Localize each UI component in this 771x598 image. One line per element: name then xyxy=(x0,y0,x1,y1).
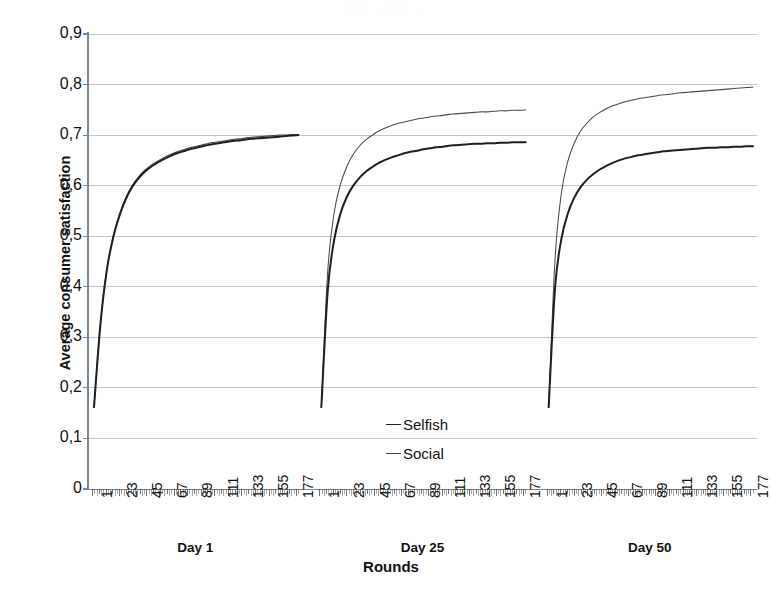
y-axis-tick-label: 0,5 xyxy=(36,227,82,243)
series-line-selfish xyxy=(321,142,525,407)
y-axis-tick-label: 0,3 xyxy=(36,328,82,344)
panel-caption-day-25: Day 25 xyxy=(315,540,529,555)
chart-legend: SelfishSocial xyxy=(386,410,516,468)
legend-line-swatch xyxy=(386,453,401,454)
y-axis-tick-label: 0 xyxy=(36,480,82,496)
x-axis-title: Rounds xyxy=(0,558,764,575)
y-axis-tick-label: 0,9 xyxy=(36,25,82,41)
legend-item-social[interactable]: Social xyxy=(386,439,516,468)
x-axis-tick-mark-strip xyxy=(92,489,300,496)
series-line-selfish xyxy=(94,135,298,407)
panel-caption-day-1: Day 1 xyxy=(88,540,302,555)
panel-caption-day-50: Day 50 xyxy=(543,540,757,555)
x-axis-tick-mark-strip xyxy=(319,489,527,496)
legend-line-swatch xyxy=(386,424,401,425)
series-line-social xyxy=(94,135,298,408)
legend-item-label: Selfish xyxy=(403,416,448,433)
y-axis-tick-labels: 00,10,20,30,40,50,60,70,80,9 xyxy=(30,0,82,598)
legend-item-label: Social xyxy=(403,445,444,462)
y-axis-tick-label: 0,6 xyxy=(36,177,82,193)
x-axis-tick-label: 177 xyxy=(528,475,542,498)
y-axis-tick-label: 0,8 xyxy=(36,76,82,92)
series-line-social xyxy=(321,110,525,407)
y-axis-tick-label: 0,2 xyxy=(36,379,82,395)
y-axis-tick-label: 0,4 xyxy=(36,278,82,294)
x-axis-tick-label: 177 xyxy=(301,475,315,498)
x-axis-title-text: Rounds xyxy=(363,558,419,575)
y-axis-tick-label: 0,7 xyxy=(36,126,82,142)
y-axis-tick-label: 0,1 xyxy=(36,429,82,445)
legend-item-selfish[interactable]: Selfish xyxy=(386,410,516,439)
x-axis-tick-mark-strip xyxy=(547,489,755,496)
x-axis-tick-label: 177 xyxy=(756,475,770,498)
